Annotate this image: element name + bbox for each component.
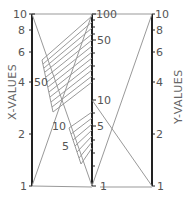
right-tick-6: 6 [156,46,163,59]
left-tick-8: 8 [18,24,25,37]
right-tick-1: 1 [157,180,164,193]
middle-tick-5: 5 [97,120,104,133]
diagonal-mid-top-to-right-bottom [92,100,152,186]
middle-tick-10: 10 [97,94,111,107]
right-tick-10: 10 [155,8,169,21]
upper-hatch [42,16,92,112]
hatch-label-10: 10 [52,120,66,133]
middle-tick-50: 50 [97,34,111,47]
hatch-label-50: 50 [34,76,48,89]
left-tick-6: 6 [18,46,25,59]
left-tick-4: 4 [18,76,25,89]
lower-hatch [69,112,92,164]
hatch-label-5: 5 [62,140,69,153]
right-tick-2: 2 [156,128,163,141]
left-tick-10: 10 [13,8,27,21]
nomograph: 10 8 6 4 2 1 100 50 10 5 1 10 8 6 4 2 1 … [0,0,185,202]
right-tick-4: 4 [156,76,163,89]
left-axis-title: X-VALUES [6,64,19,120]
left-tick-1: 1 [20,180,27,193]
right-tick-8: 8 [156,24,163,37]
left-tick-2: 2 [18,128,25,141]
right-axis-title: Y-VALUES [172,69,185,125]
middle-tick-1: 1 [100,180,107,193]
bottom-connector [32,186,92,187]
middle-tick-100: 100 [96,8,117,21]
